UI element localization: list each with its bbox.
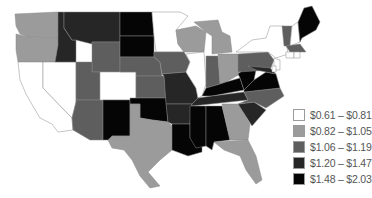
state-nm bbox=[103, 100, 130, 140]
state-ct bbox=[286, 52, 294, 58]
legend-swatch bbox=[293, 109, 305, 121]
state-in bbox=[206, 56, 220, 88]
legend-swatch bbox=[293, 125, 305, 137]
state-nd bbox=[120, 12, 154, 36]
state-or bbox=[16, 34, 58, 62]
legend-item: $1.06 – $1.19 bbox=[293, 139, 372, 155]
state-ks bbox=[136, 76, 166, 98]
state-mt bbox=[64, 12, 120, 44]
state-ri bbox=[294, 52, 300, 58]
state-wy bbox=[92, 42, 120, 72]
legend-label: $1.20 – $1.47 bbox=[310, 157, 372, 169]
legend-item: $1.48 – $2.03 bbox=[293, 171, 372, 187]
state-ms bbox=[190, 106, 206, 148]
map-legend: $0.61 – $0.81 $0.82 – $1.05 $1.06 – $1.1… bbox=[293, 107, 372, 187]
legend-label: $1.48 – $2.03 bbox=[310, 173, 372, 185]
legend-swatch bbox=[293, 173, 305, 185]
state-sd bbox=[120, 36, 154, 57]
state-me bbox=[298, 6, 320, 42]
state-fl bbox=[214, 140, 262, 184]
state-de bbox=[272, 66, 276, 72]
legend-label: $1.06 – $1.19 bbox=[310, 141, 372, 153]
legend-item: $0.61 – $0.81 bbox=[293, 107, 372, 123]
legend-item: $1.20 – $1.47 bbox=[293, 155, 372, 171]
state-az bbox=[72, 100, 103, 140]
legend-label: $0.61 – $0.81 bbox=[310, 109, 372, 121]
legend-swatch bbox=[293, 141, 305, 153]
legend-swatch bbox=[293, 157, 305, 169]
legend-item: $0.82 – $1.05 bbox=[293, 123, 372, 139]
state-ar bbox=[166, 104, 192, 124]
state-wa bbox=[15, 12, 58, 38]
state-co bbox=[100, 72, 136, 100]
legend-label: $0.82 – $1.05 bbox=[310, 125, 372, 137]
